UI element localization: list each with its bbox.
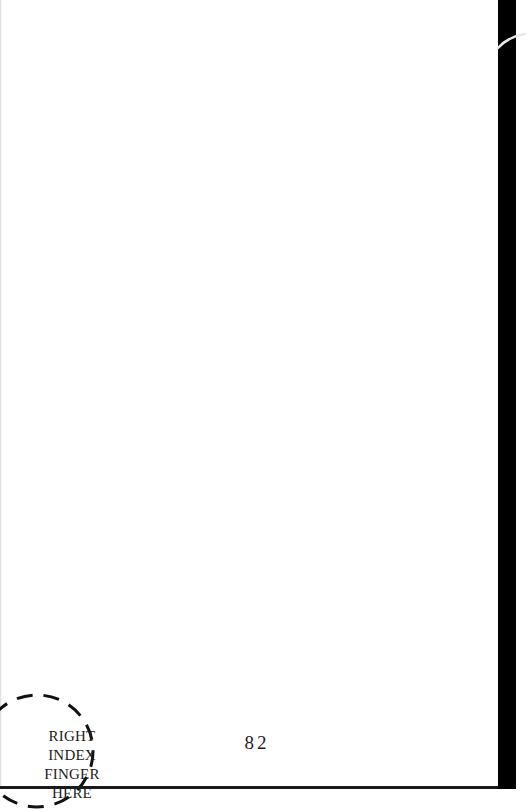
finger-guide-line-2: INDEX	[24, 746, 120, 765]
finger-guide-label: RIGHT INDEX FINGER HERE	[24, 727, 120, 803]
page-bottom-edge	[0, 786, 498, 789]
finger-guide-line-1: RIGHT	[24, 727, 120, 746]
page-curl-highlight-icon	[497, 28, 527, 50]
page-number: 82	[227, 732, 287, 754]
document-page: RIGHT INDEX FINGER HERE 82	[0, 0, 498, 786]
page-left-edge	[0, 0, 2, 786]
scan-border-right	[498, 0, 516, 789]
finger-guide-line-3: FINGER	[24, 765, 120, 784]
